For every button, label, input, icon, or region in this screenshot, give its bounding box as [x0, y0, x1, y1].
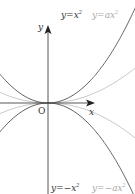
x-axis-label: x [89, 107, 94, 117]
curve-y-ax2 [0, 57, 135, 103]
parabola-diagram: x y O y=x2 y=ax2 y=−x2 y=−ax2 [0, 0, 135, 194]
curve-y-neg-ax2 [0, 103, 135, 149]
label-y-x2: y=x2 [60, 9, 82, 20]
label-y-ax2: y=ax2 [91, 9, 118, 20]
origin-label: O [38, 106, 45, 116]
label-y-neg-ax2: y=−ax2 [91, 182, 126, 193]
label-y-neg-x2: y=−x2 [50, 182, 79, 193]
y-axis-label: y [37, 22, 44, 32]
curve-y-neg-x2 [0, 103, 135, 194]
